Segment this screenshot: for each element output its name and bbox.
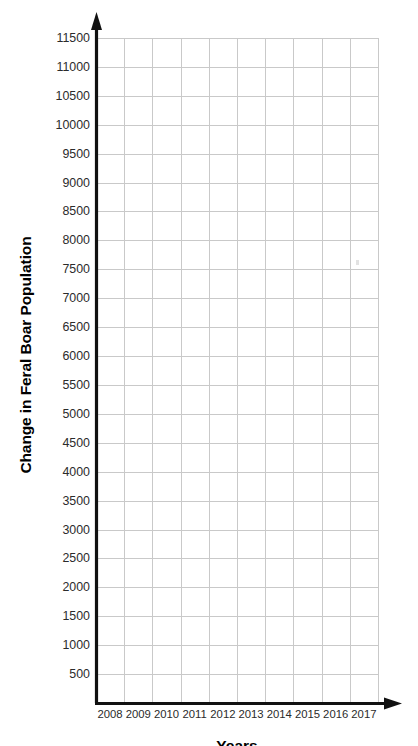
y-axis-arrowhead — [91, 12, 102, 30]
x-tick-label: 2008 — [96, 707, 124, 721]
x-tick-label: 2017 — [350, 707, 378, 721]
x-tick-label: 2012 — [209, 707, 237, 721]
x-tick-label: 2009 — [124, 707, 152, 721]
chart-figure: Change in Feral Boar Population 11500110… — [0, 0, 418, 746]
x-tick-label: 2010 — [153, 707, 181, 721]
x-tick-label: 2011 — [181, 707, 209, 721]
x-axis-arrowhead — [384, 698, 402, 710]
x-axis-title: Years — [96, 737, 378, 746]
x-axis-tick-labels: 2008200920102011201220132014201520162017 — [96, 707, 378, 723]
x-tick-label: 2015 — [294, 707, 322, 721]
x-tick-label: 2016 — [322, 707, 350, 721]
x-tick-label: 2013 — [237, 707, 265, 721]
x-tick-label: 2014 — [265, 707, 293, 721]
axis-lines — [0, 0, 418, 746]
